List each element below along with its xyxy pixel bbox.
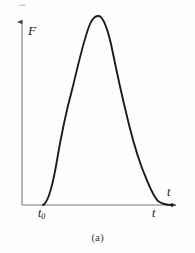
tick-label-t0-subscript: 0 [41, 212, 45, 221]
y-axis-label: F [28, 24, 36, 37]
x-axis-label: t [167, 186, 170, 198]
tick-label-t0: t0 [38, 207, 45, 221]
figure-container: ▄ F t t0 t (a) [0, 0, 195, 253]
force-curve [43, 16, 172, 205]
figure-caption: (a) [0, 232, 195, 243]
tick-label-t: t [152, 207, 155, 219]
